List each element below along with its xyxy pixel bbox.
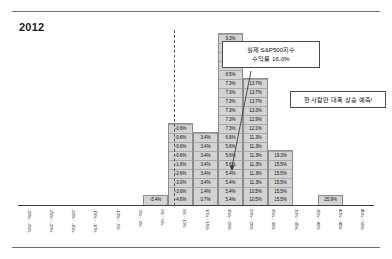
plot-area: -5.4%-4.6%-3.6%-3.0%-2.6%-1.6%-0.6%-0.6%… — [18, 30, 374, 206]
bar-segment-label: 13.7% — [244, 88, 267, 97]
bar-segment-label: -1.6% — [169, 160, 192, 169]
x-axis-tick-label: 20% ~ 25% — [249, 209, 254, 230]
bar-segment-label: 7.3% — [219, 97, 242, 106]
x-axis-tick: -25% ~ -20% — [40, 208, 62, 252]
chart-page: 2012 -5.4%-4.6%-3.6%-3.0%-2.6%-1.6%-0.6%… — [0, 0, 392, 259]
bar-segment-label: 3.4% — [194, 133, 217, 142]
bar-segment-label: 13.3% — [244, 106, 267, 115]
x-axis-tick-label: 45% ~ 50% — [360, 209, 365, 230]
bar-segment-label: 12.1% — [244, 124, 267, 133]
bar-column — [118, 30, 143, 206]
bar-stack: 10.5%10.5%11.3%11.3%11.3%11.3%11.3%11.3%… — [243, 78, 268, 206]
callout-actual-return: 실제 S&P500지수 수익률 16.0% — [222, 41, 320, 68]
bar-segment-label: -5.4% — [144, 196, 167, 205]
x-axis-line — [18, 205, 374, 206]
bar-column — [93, 30, 118, 206]
x-axis-tick-label: -30% ~ -25% — [27, 209, 32, 232]
x-axis-tick-label: 0% ~ 5% — [160, 209, 165, 225]
x-axis-tick: -30% ~ -25% — [18, 208, 40, 252]
bar-segment-label: 15.5% — [269, 196, 292, 205]
x-axis-tick-label: -10% ~ -5% — [116, 209, 121, 230]
x-axis-tick: -10% ~ -5% — [107, 208, 129, 252]
x-axis-tick-label: 15% ~ 20% — [227, 209, 232, 230]
bar-segment-label: 1.4% — [194, 187, 217, 196]
bar-segment-label: -0.6% — [169, 133, 192, 142]
bar-segment-label: 19.3% — [269, 151, 292, 160]
bar-segment-label: 11.3% — [244, 151, 267, 160]
bar-segment-label: -3.6% — [169, 187, 192, 196]
x-axis-tick: 25% ~ 30% — [263, 208, 285, 252]
bar-segment-label: -0.6% — [169, 151, 192, 160]
bar-segment-label: 11.3% — [244, 160, 267, 169]
x-axis-tick-label: 40% ~ 45% — [338, 209, 343, 230]
bar-segment-label: 5.6% — [219, 142, 242, 151]
bar-segment-label: 7.3% — [219, 88, 242, 97]
x-axis-tick: 10% ~ 15% — [196, 208, 218, 252]
bar-column — [18, 30, 43, 206]
x-axis-tick: -15% ~ -10% — [85, 208, 107, 252]
x-axis-tick-label: 25% ~ 30% — [271, 209, 276, 230]
bar-segment-label: -0.6% — [169, 124, 192, 133]
x-axis-tick: 5% ~ 10% — [174, 208, 196, 252]
x-axis-tick-label: -15% ~ -10% — [93, 209, 98, 232]
bar-segment-label: 6.6% — [219, 133, 242, 142]
bar-segment-label: 7.3% — [219, 124, 242, 133]
bar-column: 0.7%1.4%3.4%3.4%3.4%3.4%3.4%3.4% — [193, 30, 218, 206]
bar-segment-label: 11.3% — [244, 178, 267, 187]
bar-column — [343, 30, 368, 206]
bar-segment-label: 15.5% — [269, 187, 292, 196]
bar-column: -5.4% — [143, 30, 168, 206]
bar-segment-label: 11.3% — [244, 133, 267, 142]
bar-segment-label: 5.4% — [219, 169, 242, 178]
bar-segment-label: 13.7% — [244, 97, 267, 106]
bar-segment-label: 3.4% — [194, 160, 217, 169]
bar-stack: 0.7%1.4%3.4%3.4%3.4%3.4%3.4%3.4% — [193, 132, 218, 206]
bar-segment-label: 15.5% — [269, 169, 292, 178]
bar-segment-label: 10.5% — [244, 187, 267, 196]
bar-column — [68, 30, 93, 206]
x-axis-tick: 20% ~ 25% — [241, 208, 263, 252]
top-divider-rule — [12, 11, 380, 12]
bar-segment-label: 5.6% — [219, 160, 242, 169]
bar-group: -5.4%-4.6%-3.6%-3.0%-2.6%-1.6%-0.6%-0.6%… — [18, 30, 374, 206]
bar-stack: -4.6%-3.6%-3.0%-2.6%-1.6%-0.6%-0.6%-0.6%… — [168, 123, 193, 206]
bar-segment-label: 10.5% — [244, 196, 267, 205]
x-axis-tick-label: -20% ~ -15% — [71, 209, 76, 232]
bar-segment-label: 3.4% — [194, 151, 217, 160]
bar-segment-label: -3.0% — [169, 178, 192, 187]
x-axis-tick-label: 30% ~ 35% — [294, 209, 299, 230]
bar-segment-label: 0.7% — [194, 196, 217, 205]
bar-segment-label: 25.9% — [319, 196, 342, 205]
bar-segment-label: 15.5% — [269, 178, 292, 187]
bar-segment-label: -2.6% — [169, 169, 192, 178]
bar-segment-label: 3.4% — [194, 178, 217, 187]
bar-segment-label: 12.9% — [244, 115, 267, 124]
bar-segment-label: 5.6% — [219, 151, 242, 160]
x-axis-tick-label: 10% ~ 15% — [205, 209, 210, 230]
bar-column — [43, 30, 68, 206]
callout-outlier-note: 한 사람만 대폭 상승 예측! — [290, 91, 386, 108]
x-axis-tick: 40% ~ 45% — [330, 208, 352, 252]
bar-segment-label: 3.4% — [194, 142, 217, 151]
bar-segment-label: 13.7% — [244, 79, 267, 88]
bar-segment-label: 11.3% — [244, 142, 267, 151]
bar-segment-label: 15.5% — [269, 160, 292, 169]
bar-segment-label: 5.4% — [219, 196, 242, 205]
bar-segment-label: 5.4% — [219, 178, 242, 187]
bar-segment-label: 7.3% — [219, 106, 242, 115]
bar-segment-label: 7.3% — [219, 79, 242, 88]
bar-stack: 15.5%15.5%15.5%15.5%15.5%19.3% — [268, 150, 293, 206]
x-axis-tick: 45% ~ 50% — [352, 208, 374, 252]
bar-segment-label: 3.4% — [194, 169, 217, 178]
x-axis-tick-label: 35% ~ 40% — [316, 209, 321, 230]
x-axis-tick-label: -25% ~ -20% — [49, 209, 54, 232]
bar-segment-label: -0.6% — [169, 142, 192, 151]
x-axis-tick-label: -5% ~ 0% — [138, 209, 143, 227]
x-axis-tick: -20% ~ -15% — [63, 208, 85, 252]
zero-reference-line — [174, 30, 175, 206]
bar-segment-label: 8.5% — [219, 70, 242, 79]
x-axis-tick: 30% ~ 35% — [285, 208, 307, 252]
x-axis-tick: -5% ~ 0% — [129, 208, 151, 252]
x-axis-tick-label: 5% ~ 10% — [182, 209, 187, 228]
x-axis-tick-labels: -30% ~ -25%-25% ~ -20%-20% ~ -15%-15% ~ … — [18, 208, 374, 252]
